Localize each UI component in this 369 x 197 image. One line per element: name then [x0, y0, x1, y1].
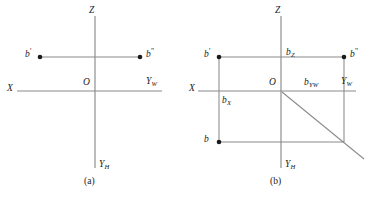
panel-b-axis-label-yw-base: Y [341, 76, 346, 86]
panel-a-label-b-double-prime: b" [146, 50, 154, 60]
panel-a-axis-label-z: Z [89, 6, 94, 16]
panel-b-diagonal-bisector [282, 92, 364, 159]
panel-b-origin-label: O [269, 78, 276, 88]
panel-b-label-bx: bX [222, 96, 231, 106]
panel-a-axis-label-yw-sub: W [152, 80, 158, 87]
panel-b-axis-label-yh-sub: H [291, 163, 296, 170]
panel-a-caption: (a) [84, 177, 95, 187]
panel-a-point-b-double-prime [138, 55, 143, 60]
panel-b-caption: (b) [270, 177, 281, 187]
panel-b-label-b: b [204, 135, 209, 145]
panel-a-axis-label-yh-base: Y [99, 159, 104, 169]
figure-canvas [0, 0, 369, 197]
panel-b-point-b-prime [217, 55, 222, 60]
panel-a-point-b-prime [38, 55, 43, 60]
panel-b-point-b [217, 140, 222, 145]
panel-a-axis-label-yh-sub: H [105, 163, 110, 170]
panel-b-axis-label-x: X [189, 84, 195, 94]
panel-a-axis-label-yw: YW [146, 77, 157, 87]
panel-a-axis-label-x: X [7, 84, 13, 94]
panel-b-label-b-prime: b' [204, 50, 210, 60]
panel-a-label-b-prime: b' [25, 50, 31, 60]
projection-figure: Z X YW YH O b' b" (a) Z X YW YH O b' b" … [0, 0, 369, 197]
panel-b-label-byw: bYW [304, 78, 318, 88]
panel-a-origin-label: O [83, 78, 90, 88]
panel-b-label-bz: bZ [286, 48, 295, 58]
panel-b-graphics [198, 16, 364, 168]
panel-b-axis-label-yh: YH [285, 160, 295, 170]
panel-b-label-byw-sub: YW [309, 81, 318, 88]
panel-a-graphics [17, 16, 162, 168]
panel-a-label-b-double-prime-sup: " [151, 47, 154, 56]
panel-b-point-b-double-prime [342, 55, 347, 60]
panel-b-axis-label-z: Z [275, 6, 280, 16]
panel-a-axis-label-yh: YH [99, 160, 109, 170]
panel-b-axis-label-yw-sub: W [347, 80, 353, 87]
panel-b-label-bx-sub: X [227, 99, 231, 106]
panel-a-axis-label-yw-base: Y [146, 76, 151, 86]
panel-b-label-b-double-prime-sup: " [355, 47, 358, 56]
panel-b-label-bz-sub: Z [291, 51, 295, 58]
panel-b-axis-label-yh-base: Y [285, 159, 290, 169]
panel-b-axis-label-yw: YW [341, 77, 352, 87]
panel-b-label-b-double-prime: b" [350, 50, 358, 60]
